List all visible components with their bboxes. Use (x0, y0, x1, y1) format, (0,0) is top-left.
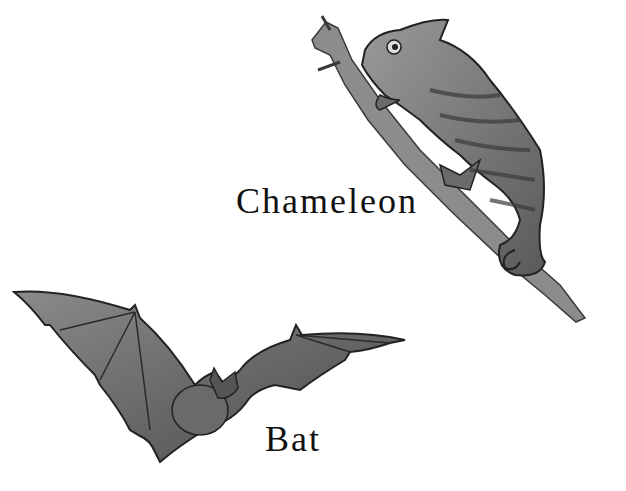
chameleon-drawing (362, 20, 545, 276)
illustration-canvas: Chameleon Bat (0, 0, 626, 491)
bat-label: Bat (265, 418, 321, 460)
chameleon-label: Chameleon (236, 180, 418, 222)
bat-drawing (14, 291, 405, 462)
